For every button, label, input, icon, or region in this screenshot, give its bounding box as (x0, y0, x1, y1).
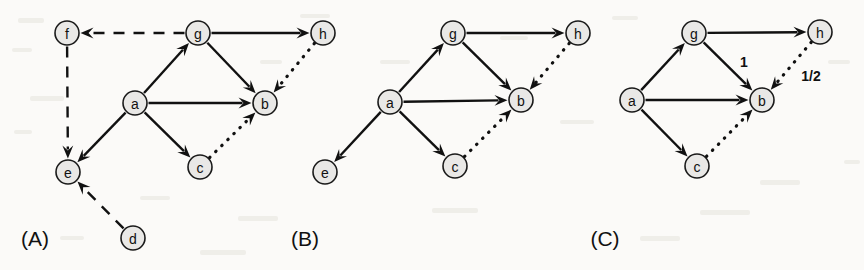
node-a[interactable]: a (123, 91, 147, 115)
panel-caption-a: (A) (21, 227, 49, 250)
edge-a-to-c (641, 110, 681, 150)
edge-layer: 11/2 (641, 27, 821, 157)
node-layer: fghabecd (55, 21, 335, 250)
edge-a-to-e (84, 113, 126, 156)
node-b[interactable]: b (253, 91, 277, 115)
panel-b: ghabec(B) (291, 21, 590, 250)
edge-d-to-e (84, 188, 124, 228)
edge-a-to-g (144, 50, 183, 93)
edge-h-to-b (279, 43, 314, 85)
edge-h-to-b (536, 43, 570, 83)
edge-c-to-b (706, 116, 746, 156)
panel-caption-c: (C) (590, 227, 619, 250)
node-label-e: e (321, 165, 329, 181)
panel-caption-b: (B) (291, 227, 319, 250)
node-label-h: h (574, 26, 582, 42)
node-g[interactable]: g (186, 21, 210, 45)
node-b[interactable]: b (509, 88, 533, 112)
arrowhead-c-to-b (242, 112, 255, 125)
edge-a-to-b (403, 100, 498, 101)
edge-a-to-g (641, 50, 679, 91)
edge-g-to-b (463, 42, 505, 84)
edge-c-to-b (210, 119, 249, 158)
edge-a-to-g (399, 50, 438, 92)
node-g[interactable]: g (441, 21, 465, 45)
node-c[interactable]: c (685, 154, 709, 178)
node-label-g: g (449, 26, 457, 42)
node-e[interactable]: e (313, 160, 337, 184)
node-layer: ghabec (313, 21, 590, 184)
edge-g-to-b (207, 43, 249, 87)
node-h[interactable]: h (311, 21, 335, 45)
node-f[interactable]: f (55, 21, 79, 45)
node-label-g: g (690, 26, 698, 42)
node-e[interactable]: e (56, 160, 80, 184)
node-label-b: b (261, 96, 269, 112)
node-label-a: a (628, 93, 636, 109)
edge-a-to-e (340, 112, 381, 156)
edge-g-to-h (707, 32, 797, 33)
node-h[interactable]: h (566, 21, 590, 45)
edge-weight-g-b: 1 (740, 54, 748, 70)
edge-a-to-c (400, 111, 439, 150)
node-label-b: b (517, 93, 525, 109)
node-g[interactable]: g (682, 21, 706, 45)
node-label-a: a (386, 95, 394, 111)
node-label-h: h (816, 25, 824, 41)
node-label-b: b (758, 93, 766, 109)
node-label-g: g (194, 26, 202, 42)
node-label-c: c (452, 159, 459, 175)
arrowhead-h-to-b (771, 76, 784, 89)
edge-f-to-e (67, 46, 68, 149)
edge-a-to-c (145, 112, 184, 151)
node-label-a: a (131, 96, 139, 112)
node-label-h: h (319, 26, 327, 42)
graph-figure: fghabecd(A)ghabec(B)11/2ghabc(C) (0, 0, 864, 270)
node-label-d: d (129, 231, 137, 247)
edge-layer (334, 28, 569, 163)
node-h[interactable]: h (808, 20, 832, 44)
node-c[interactable]: c (188, 155, 212, 179)
node-label-f: f (65, 26, 69, 42)
node-d[interactable]: d (121, 226, 145, 250)
node-b[interactable]: b (750, 88, 774, 112)
arrowhead-h-to-b (274, 79, 286, 92)
edge-c-to-b (465, 116, 506, 157)
node-label-c: c (197, 160, 204, 176)
node-a[interactable]: a (620, 88, 644, 112)
panel-a: fghabecd(A) (21, 21, 335, 250)
node-label-c: c (694, 159, 701, 175)
edge-layer (62, 28, 314, 229)
graph-canvas: fghabecd(A)ghabec(B)11/2ghabc(C) (0, 0, 864, 270)
edge-weight-h-b: 1/2 (801, 68, 821, 84)
arrowhead-g-to-f (81, 28, 94, 39)
node-label-e: e (64, 165, 72, 181)
panel-c: 11/2ghabc(C) (590, 20, 832, 250)
node-c[interactable]: c (443, 154, 467, 178)
node-a[interactable]: a (378, 90, 402, 114)
